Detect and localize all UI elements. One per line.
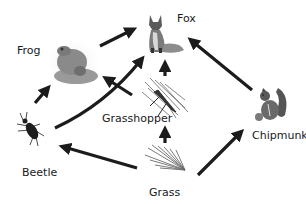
arrow-grass-to-beetle bbox=[64, 147, 137, 168]
node-label-chipmunk: Chipmunk bbox=[252, 130, 306, 142]
node-label-grass: Grass bbox=[149, 187, 180, 199]
arrow-frog-to-fox bbox=[100, 30, 132, 46]
beetle-icon bbox=[17, 112, 44, 146]
arrow-beetle-to-frog bbox=[35, 89, 47, 103]
frog-icon bbox=[45, 39, 101, 87]
arrow-grass-to-chipmunk bbox=[198, 133, 240, 175]
node-label-fox: Fox bbox=[177, 13, 196, 25]
food-web-diagram: Fox Frog Grasshopper Beetle Chipmunk Gra… bbox=[0, 0, 306, 204]
grass-icon bbox=[145, 145, 185, 170]
node-label-grasshopper: Grasshopper bbox=[102, 113, 172, 125]
node-label-beetle: Beetle bbox=[22, 167, 57, 179]
arrow-chipmunk-to-fox bbox=[192, 41, 252, 90]
chipmunk-icon bbox=[255, 88, 286, 121]
node-label-frog: Frog bbox=[17, 45, 41, 57]
